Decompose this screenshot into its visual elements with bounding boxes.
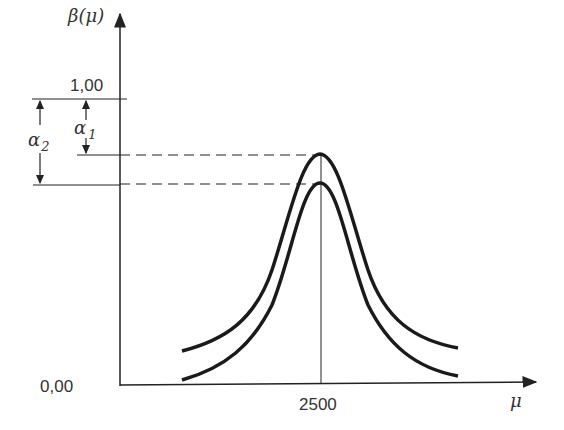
lower-power-curve <box>182 183 458 380</box>
y-tick-bottom: 0,00 <box>40 377 73 396</box>
y-axis-label: β(μ) <box>67 5 104 26</box>
alpha1-label: α1 <box>74 117 96 142</box>
y-tick-top: 1,00 <box>70 76 103 95</box>
x-tick-center: 2500 <box>299 395 337 414</box>
power-curve-diagram: β(μ) μ 1,00 0,00 2500 α1 α2 <box>0 0 564 430</box>
x-axis-label: μ <box>510 390 522 411</box>
alpha2-label: α2 <box>28 129 49 154</box>
x-axis <box>120 382 536 385</box>
